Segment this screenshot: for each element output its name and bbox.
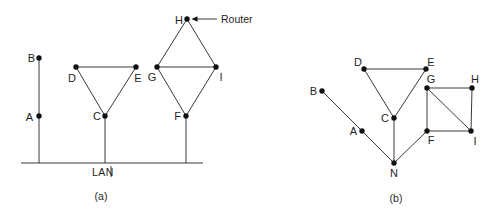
- lan-diagram-node-D: [73, 64, 78, 69]
- graph-diagram-node-label-A: A: [350, 125, 358, 137]
- lan-diagram-node-B: [36, 55, 41, 60]
- lan-diagram-node-label-C: C: [93, 110, 101, 122]
- lan-diagram-node-E: [133, 64, 138, 69]
- graph-diagram-node-label-F: F: [428, 134, 435, 146]
- lan-diagram-edge-D-C: [76, 67, 105, 116]
- lan-diagram-node-label-G: G: [148, 71, 157, 83]
- graph-diagram-node-N: [391, 160, 396, 165]
- lan-diagram-edge-G-F: [157, 67, 186, 116]
- lan-diagram-edge-E-C: [105, 67, 136, 116]
- graph-diagram-node-A: [359, 128, 364, 133]
- graph-diagram-node-D: [361, 66, 366, 71]
- graph-diagram-node-G: [424, 85, 429, 90]
- lan-diagram-node-C: [102, 113, 107, 118]
- graph-diagram-node-F: [424, 128, 429, 133]
- lan-label: LAN: [92, 166, 114, 178]
- graph-diagram-node-label-D: D: [354, 56, 362, 68]
- lan-diagram-node-H: [184, 16, 189, 21]
- graph-diagram-edge-F-N: [394, 131, 427, 163]
- graph-diagram-node-H: [469, 85, 474, 90]
- graph-diagram-edge-H-I: [471, 88, 472, 131]
- graph-diagram-node-label-N: N: [390, 167, 398, 179]
- lan-diagram-node-label-D: D: [68, 72, 76, 84]
- graph-diagram-node-C: [391, 115, 396, 120]
- graph-diagram-node-B: [319, 88, 324, 93]
- lan-diagram-node-label-I: I: [219, 71, 222, 83]
- graph-diagram-edge-D-C: [364, 69, 394, 118]
- lan-diagram-node-G: [154, 64, 159, 69]
- network-diagrams-svg: BADECHGIFBANCDEGHFI: [0, 0, 499, 216]
- lan-diagram-edge-H-G: [157, 19, 187, 67]
- graph-diagram-node-label-E: E: [427, 56, 434, 68]
- network-figure: BADECHGIFBANCDEGHFI LAN Router (a) (b): [0, 0, 499, 216]
- graph-diagram-node-label-C: C: [381, 112, 389, 124]
- lan-diagram-node-I: [213, 64, 218, 69]
- lan-diagram-node-F: [183, 113, 188, 118]
- caption-b: (b): [390, 192, 403, 204]
- router-label: Router: [221, 13, 253, 25]
- lan-diagram-node-label-B: B: [28, 52, 35, 64]
- lan-diagram-node-label-A: A: [26, 111, 34, 123]
- caption-a: (a): [95, 190, 108, 202]
- lan-diagram-edge-H-I: [187, 19, 216, 67]
- router-arrow-head-icon: [192, 16, 198, 21]
- graph-diagram-edge-E-C: [394, 69, 426, 118]
- lan-diagram-edge-I-F: [186, 67, 216, 116]
- lan-diagram-node-label-H: H: [175, 14, 183, 26]
- graph-diagram-node-label-I: I: [473, 135, 476, 147]
- graph-diagram-edge-A-N: [362, 131, 394, 163]
- lan-diagram-node-label-F: F: [174, 110, 181, 122]
- graph-diagram-edge-G-I: [427, 88, 471, 131]
- graph-diagram-node-I: [468, 128, 473, 133]
- graph-diagram-node-label-H: H: [471, 73, 479, 85]
- graph-diagram-node-label-G: G: [427, 73, 436, 85]
- lan-diagram-node-A: [36, 113, 41, 118]
- lan-diagram-node-label-E: E: [134, 72, 141, 84]
- graph-diagram-node-label-B: B: [310, 85, 317, 97]
